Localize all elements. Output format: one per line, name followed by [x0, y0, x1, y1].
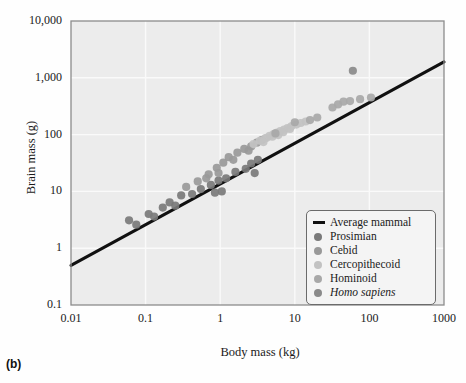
legend-label: Prosimian — [330, 229, 377, 243]
circle-marker-icon — [314, 275, 322, 283]
data-point — [159, 203, 167, 211]
data-point — [211, 189, 219, 197]
data-point — [229, 156, 237, 164]
data-point — [222, 174, 230, 182]
data-point — [349, 67, 357, 75]
legend-dot-swatch — [313, 285, 327, 299]
data-point — [182, 183, 190, 191]
legend-dot-swatch — [313, 243, 327, 257]
data-point — [150, 213, 158, 221]
x-tick-label: 100 — [339, 311, 399, 326]
legend-label: Cebid — [330, 243, 357, 257]
legend-item-average-mammal[interactable]: Average mammal — [313, 215, 430, 229]
data-point — [367, 93, 375, 101]
data-point — [244, 147, 252, 155]
x-tick-label: 10 — [265, 311, 325, 326]
legend-item-homo-sapiens[interactable]: Homo sapiens — [313, 285, 430, 299]
data-point — [125, 216, 133, 224]
data-point — [271, 129, 279, 137]
legend-label: Hominoid — [330, 271, 377, 285]
legend-line-swatch — [313, 215, 327, 229]
data-point — [254, 156, 262, 164]
data-point — [214, 169, 222, 177]
y-tick-label: 100 — [4, 127, 62, 142]
y-tick-label: 1 — [4, 240, 62, 255]
data-point — [291, 118, 299, 126]
data-point — [197, 185, 205, 193]
y-tick-label: 1,000 — [4, 70, 62, 85]
x-tick-label: 1 — [190, 311, 250, 326]
data-point — [202, 174, 210, 182]
legend-label: Homo sapiens — [330, 285, 396, 299]
x-axis-title: Body mass (kg) — [180, 345, 340, 360]
data-point — [231, 168, 239, 176]
circle-marker-icon — [314, 247, 322, 255]
x-tick-label: 1000 — [414, 311, 466, 326]
data-point — [259, 138, 267, 146]
legend-item-prosimian[interactable]: Prosimian — [313, 229, 430, 243]
data-point — [214, 176, 222, 184]
legend-item-cercopithecoid[interactable]: Cercopithecoid — [313, 257, 430, 271]
series-homo-sapiens — [349, 67, 357, 75]
circle-marker-icon — [314, 289, 322, 297]
data-point — [194, 177, 202, 185]
data-point — [218, 187, 226, 195]
legend-label: Cercopithecoid — [330, 257, 400, 271]
data-point — [306, 116, 314, 124]
data-point — [328, 103, 336, 111]
circle-marker-icon — [314, 233, 322, 241]
legend-label: Average mammal — [330, 215, 411, 229]
panel-label: (b) — [6, 357, 21, 371]
y-tick-label: 10 — [4, 183, 62, 198]
data-point — [251, 169, 259, 177]
data-point — [286, 125, 294, 133]
data-point — [132, 221, 140, 229]
legend-dot-swatch — [313, 271, 327, 285]
data-point — [313, 113, 321, 121]
circle-marker-icon — [314, 261, 322, 269]
y-tick-label: 0.1 — [4, 297, 62, 312]
data-point — [356, 95, 364, 103]
legend-dot-swatch — [313, 229, 327, 243]
data-point — [177, 191, 185, 199]
legend-item-cebid[interactable]: Cebid — [313, 243, 430, 257]
legend-dot-swatch — [313, 257, 327, 271]
line-marker-icon — [313, 221, 325, 224]
data-point — [188, 190, 196, 198]
legend-item-hominoid[interactable]: Hominoid — [313, 271, 430, 285]
data-point — [207, 181, 215, 189]
y-tick-label: 10,000 — [4, 13, 62, 28]
x-tick-label: 0.1 — [116, 311, 176, 326]
data-point — [171, 202, 179, 210]
x-tick-label: 0.01 — [41, 311, 101, 326]
chart-legend: Average mammalProsimianCebidCercopitheco… — [306, 210, 436, 305]
data-point — [346, 97, 354, 105]
figure-panel-b: Brain mass (g) Body mass (kg) 0.11101001… — [0, 0, 466, 383]
